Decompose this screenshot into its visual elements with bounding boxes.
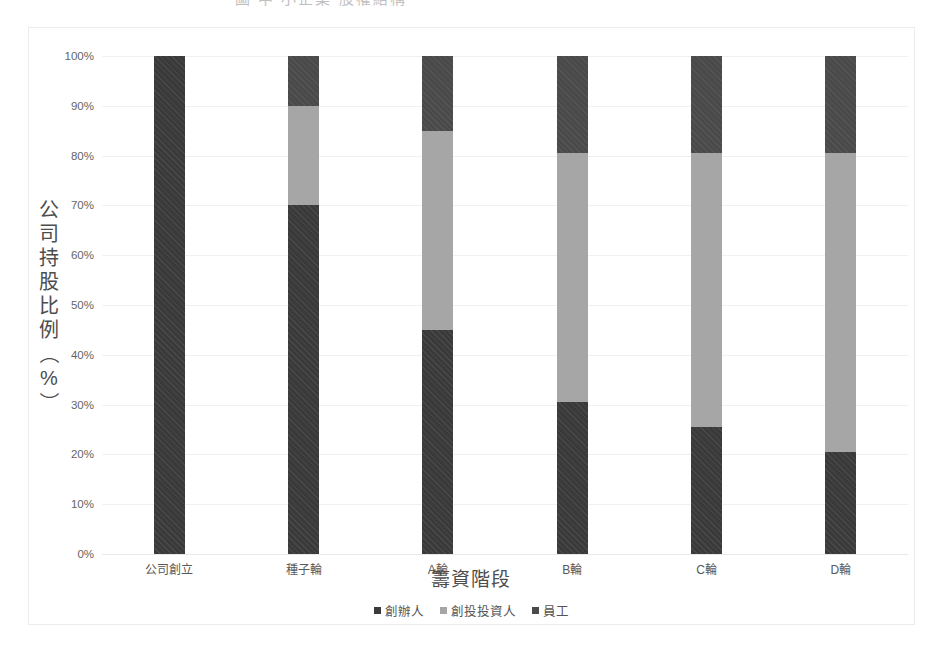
- y-axis-tick: 60%: [71, 249, 94, 261]
- gridline: [102, 454, 908, 455]
- bar-segment-founders[interactable]: [422, 330, 453, 554]
- y-axis-tick-labels: 0%10%20%30%40%50%60%70%80%90%100%: [54, 56, 98, 554]
- bar-segment-founders[interactable]: [557, 402, 588, 554]
- bar-segment-vc[interactable]: [691, 153, 722, 427]
- bar-segment-employees[interactable]: [422, 56, 453, 131]
- gridline: [102, 305, 908, 306]
- y-axis-tick: 50%: [71, 299, 94, 311]
- bar-segment-employees[interactable]: [557, 56, 588, 153]
- bar-segment-employees[interactable]: [825, 56, 856, 153]
- x-axis-title: 籌資階段: [0, 564, 942, 591]
- chart-legend: 創辦人創投投資人員工: [0, 601, 942, 620]
- legend-swatch-icon: [374, 607, 381, 614]
- y-axis-tick: 10%: [71, 498, 94, 510]
- y-axis-tick: 40%: [71, 349, 94, 361]
- y-axis-tick: 0%: [77, 548, 94, 560]
- bar-group[interactable]: [691, 56, 722, 554]
- gridline: [102, 405, 908, 406]
- legend-item[interactable]: 創投投資人: [440, 601, 516, 620]
- bar-segment-vc[interactable]: [288, 106, 319, 206]
- gridline: [102, 205, 908, 206]
- chart-title-strip: 圖 中 小企業 股權結構: [0, 0, 942, 16]
- gridline: [102, 355, 908, 356]
- y-axis-tick: 80%: [71, 150, 94, 162]
- y-axis-tick: 20%: [71, 448, 94, 460]
- bar-segment-vc[interactable]: [422, 131, 453, 330]
- chart-title: 圖 中 小企業 股權結構: [235, 0, 407, 8]
- y-axis-tick: 100%: [65, 50, 94, 62]
- bar-group[interactable]: [825, 56, 856, 554]
- bar-group[interactable]: [557, 56, 588, 554]
- legend-swatch-icon: [440, 607, 447, 614]
- bar-segment-employees[interactable]: [691, 56, 722, 153]
- gridline: [102, 554, 908, 555]
- gridline: [102, 255, 908, 256]
- gridline: [102, 504, 908, 505]
- bar-group[interactable]: [288, 56, 319, 554]
- legend-label: 創辦人: [385, 601, 424, 620]
- legend-swatch-icon: [532, 607, 539, 614]
- bar-segment-founders[interactable]: [288, 205, 319, 554]
- gridline: [102, 156, 908, 157]
- bar-group[interactable]: [154, 56, 185, 554]
- y-axis-tick: 90%: [71, 100, 94, 112]
- bar-segment-founders[interactable]: [154, 56, 185, 554]
- gridline: [102, 56, 908, 57]
- legend-item[interactable]: 員工: [532, 601, 569, 620]
- bar-segment-founders[interactable]: [825, 452, 856, 554]
- bar-segment-employees[interactable]: [288, 56, 319, 106]
- legend-item[interactable]: 創辦人: [374, 601, 424, 620]
- bar-segment-founders[interactable]: [691, 427, 722, 554]
- bar-segment-vc[interactable]: [825, 153, 856, 452]
- legend-label: 員工: [543, 601, 569, 620]
- bar-group[interactable]: [422, 56, 453, 554]
- y-axis-tick: 70%: [71, 199, 94, 211]
- plot-area: [102, 56, 908, 554]
- legend-label: 創投投資人: [451, 601, 516, 620]
- bar-segment-vc[interactable]: [557, 153, 588, 402]
- gridline: [102, 106, 908, 107]
- y-axis-tick: 30%: [71, 399, 94, 411]
